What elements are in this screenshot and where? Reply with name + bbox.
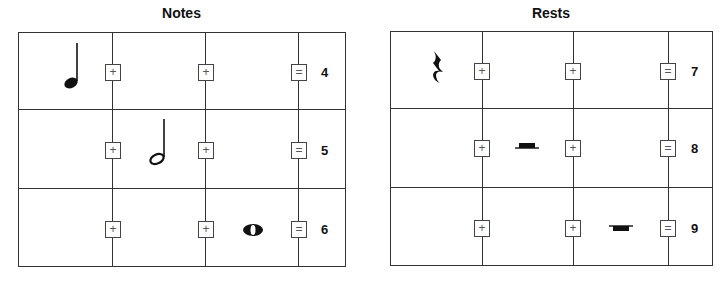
row-divider: [19, 188, 345, 189]
plus-box: +: [474, 63, 490, 80]
half-note-icon: [147, 117, 169, 167]
answer-number: 9: [691, 221, 698, 236]
plus-box: +: [565, 220, 581, 237]
equals-box: =: [660, 140, 676, 157]
row-divider: [391, 187, 712, 188]
plus-box: +: [198, 221, 214, 238]
equals-box: =: [291, 64, 307, 81]
equals-box: =: [660, 220, 676, 237]
answer-number: 4: [321, 65, 328, 80]
plus-box: +: [198, 64, 214, 81]
plus-box: +: [474, 220, 490, 237]
plus-box: +: [565, 140, 581, 157]
answer-number: 6: [321, 222, 328, 237]
half-rest-icon: [515, 142, 539, 150]
answer-number: 7: [691, 64, 698, 79]
plus-box: +: [474, 140, 490, 157]
plus-box: +: [565, 63, 581, 80]
answer-number: 8: [691, 141, 698, 156]
rests-title: Rests: [390, 5, 712, 21]
rests-grid: + + = 7 + + = 8 + + = 9: [390, 31, 713, 266]
row-divider: [19, 109, 345, 110]
notes-grid: + + = 4 + + = 5 + + = 6: [18, 32, 346, 267]
equals-box: =: [660, 63, 676, 80]
plus-box: +: [105, 64, 121, 81]
plus-box: +: [105, 142, 121, 159]
plus-box: +: [198, 142, 214, 159]
equals-box: =: [291, 221, 307, 238]
plus-box: +: [105, 221, 121, 238]
row-divider: [391, 108, 712, 109]
equals-box: =: [291, 142, 307, 159]
whole-note-icon: [242, 223, 264, 237]
whole-rest-icon: [609, 225, 633, 233]
quarter-note-icon: [61, 41, 81, 91]
notes-title: Notes: [18, 5, 345, 21]
answer-number: 5: [321, 143, 328, 158]
quarter-rest-icon: [431, 50, 445, 84]
